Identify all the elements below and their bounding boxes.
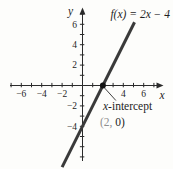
x-tick-label: −2 <box>57 89 67 99</box>
x-tick-label: 6 <box>141 89 146 99</box>
function-graph-figure: −6−4−246−4−2246 f(x) = 2x − 4 y x x-inte… <box>0 0 173 169</box>
x-tick-label: −4 <box>37 89 47 99</box>
coordinate-plane: −6−4−246−4−2246 f(x) = 2x − 4 y x x-inte… <box>0 0 173 169</box>
y-tick-label: −2 <box>67 101 77 111</box>
x-axis-label: x <box>158 89 165 101</box>
annotation-label-text: -intercept <box>108 100 153 113</box>
y-axis-label: y <box>67 5 74 18</box>
y-tick-label: −4 <box>67 122 77 132</box>
figure-background <box>0 0 173 169</box>
annotation-coordinates: (2, 0) <box>100 116 125 129</box>
function-equation-label: f(x) = 2x − 4 <box>110 8 170 21</box>
x-tick-label: 4 <box>121 89 126 99</box>
x-intercept-point <box>100 83 106 89</box>
y-tick-label: 6 <box>72 20 77 30</box>
annotation-label: x-intercept <box>102 100 153 113</box>
annotation-coordinate-y: 0) <box>112 116 125 129</box>
y-tick-label: 4 <box>72 40 77 50</box>
annotation-coordinate-x: (2, <box>100 116 113 129</box>
y-tick-label: 2 <box>72 60 77 70</box>
x-tick-label: −6 <box>16 89 26 99</box>
